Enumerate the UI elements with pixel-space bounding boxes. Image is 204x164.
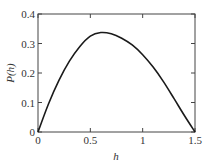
x-axis-label: h [113,150,119,162]
y-tick-label: 0.1 [21,97,35,109]
y-tick-label: 0.2 [21,67,35,79]
data-line [38,32,195,132]
x-tick-label: 1 [140,134,146,146]
x-tick-label: 1.5 [188,134,202,146]
axis-ticks [38,14,195,132]
chart: 00.511.500.10.20.30.4 h P(h) [0,0,204,164]
y-axis-label: P(h) [4,63,17,84]
y-tick-label: 0.4 [21,8,35,20]
tick-labels: 00.511.500.10.20.30.4 [21,8,202,146]
x-tick-label: 0 [35,134,41,146]
x-tick-label: 0.5 [83,134,97,146]
plot-frame [38,14,195,132]
y-tick-label: 0.3 [21,38,35,50]
y-tick-label: 0 [30,126,36,138]
